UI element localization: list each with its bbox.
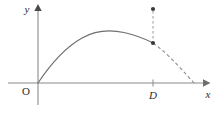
upper-point-marker bbox=[151, 7, 155, 11]
y-axis-label: y bbox=[24, 3, 30, 15]
axes-group bbox=[8, 4, 211, 105]
drop-line-group bbox=[151, 7, 155, 45]
trajectory-group bbox=[38, 31, 194, 83]
curve-point-marker bbox=[151, 41, 155, 45]
trajectory-solid-path bbox=[38, 31, 153, 83]
coordinate-plot-svg: y x O D bbox=[0, 0, 222, 113]
projectile-figure: y x O D bbox=[0, 0, 222, 113]
y-axis-arrowhead bbox=[34, 4, 41, 11]
x-axis-arrowhead bbox=[203, 79, 211, 87]
labels-group: y x O D bbox=[22, 3, 211, 101]
trajectory-dashed-path bbox=[153, 43, 194, 83]
origin-label: O bbox=[22, 85, 30, 97]
point-d-label: D bbox=[148, 89, 157, 101]
x-axis-label: x bbox=[205, 88, 211, 100]
